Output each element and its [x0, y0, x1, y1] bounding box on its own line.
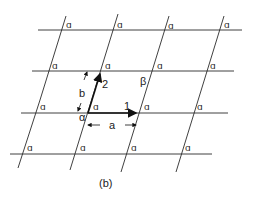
col-line-1a	[40, 16, 66, 100]
angle-alpha-label: α	[79, 111, 86, 123]
col-line-4	[176, 16, 224, 172]
motif: ɑ	[185, 143, 191, 153]
motif: ɑ	[105, 61, 111, 71]
vector-2-label: 2	[102, 78, 108, 90]
motif: ɑ	[224, 20, 230, 30]
lattice-diagram: ɑ ɑ ɑ ɑ ɑ ɑ ɑ ɑ ɑ ɑ ɑ ɑ ɑ ɑ ɑ ɑ 2 1 b a …	[0, 0, 254, 198]
col-line-1b	[18, 100, 40, 168]
length-b-label: b	[79, 87, 85, 99]
angle-beta-label: β	[140, 75, 146, 87]
figure-caption: (b)	[99, 177, 112, 189]
motif: ɑ	[168, 21, 174, 31]
motif: ɑ	[52, 61, 58, 71]
slanted-lattice-lines	[18, 14, 224, 172]
motif: ɑ	[93, 102, 99, 112]
b-dimension-arrow-up	[84, 72, 87, 80]
motif: ɑ	[27, 143, 33, 153]
lattice-motifs: ɑ ɑ ɑ ɑ ɑ ɑ ɑ ɑ ɑ ɑ ɑ ɑ ɑ ɑ ɑ ɑ	[27, 20, 230, 153]
motif: ɑ	[117, 20, 123, 30]
motif: ɑ	[40, 102, 46, 112]
length-a-label: a	[109, 119, 116, 131]
b-dimension-arrow-down	[78, 103, 81, 111]
col-line-3	[121, 16, 169, 172]
motif: ɑ	[197, 102, 203, 112]
motif: ɑ	[80, 143, 86, 153]
horizontal-lattice-lines	[10, 30, 242, 154]
motif: ɑ	[131, 143, 137, 153]
motif: ɑ	[144, 102, 150, 112]
motif: ɑ	[66, 20, 72, 30]
motif: ɑ	[157, 61, 163, 71]
motif: ɑ	[210, 61, 216, 71]
vector-1-label: 1	[124, 100, 130, 112]
